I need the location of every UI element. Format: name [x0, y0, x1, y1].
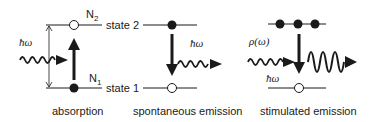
filled-state-icon: [311, 20, 320, 29]
empty-state-icon: [168, 84, 177, 93]
empty-state-icon: [70, 21, 79, 30]
energy-level-diagram: ħω N2 N1 absorption state 2 state 1 ħω s…: [0, 0, 378, 122]
photon-wave-icon: [178, 59, 222, 69]
energy-gap-arrow-icon: [46, 26, 52, 87]
empty-state-icon: [295, 84, 304, 93]
filled-state-icon: [70, 84, 79, 93]
spontaneous-caption: spontaneous emission: [133, 105, 242, 117]
n1-label: N1: [89, 72, 102, 87]
filled-state-icon: [276, 20, 285, 29]
photon-label: ħω: [190, 37, 204, 49]
absorption-caption: absorption: [52, 105, 103, 117]
photon-label: ħω: [266, 72, 280, 84]
amplified-photon-wave-icon: [308, 52, 357, 72]
down-arrow-icon: [166, 34, 178, 76]
incoming-photon-wave-icon: [248, 57, 295, 67]
spontaneous-panel: state 2 state 1 ħω spontaneous emission: [106, 19, 242, 117]
photon-label: ħω: [19, 36, 33, 48]
n2-label: N2: [86, 8, 99, 23]
state-2-label: state 2: [106, 19, 139, 31]
stimulated-caption: stimulated emission: [260, 105, 357, 117]
stimulated-panel: ρ(ω) ħω stimulated emission: [248, 20, 357, 118]
up-arrow-icon: [68, 38, 80, 80]
down-arrow-icon: [293, 34, 305, 74]
filled-state-icon: [294, 20, 303, 29]
absorption-panel: ħω N2 N1 absorption: [19, 8, 103, 117]
filled-state-icon: [168, 21, 177, 30]
state-1-label: state 1: [106, 82, 139, 94]
rho-omega-label: ρ(ω): [248, 35, 270, 48]
photon-wave-icon: [20, 55, 68, 65]
